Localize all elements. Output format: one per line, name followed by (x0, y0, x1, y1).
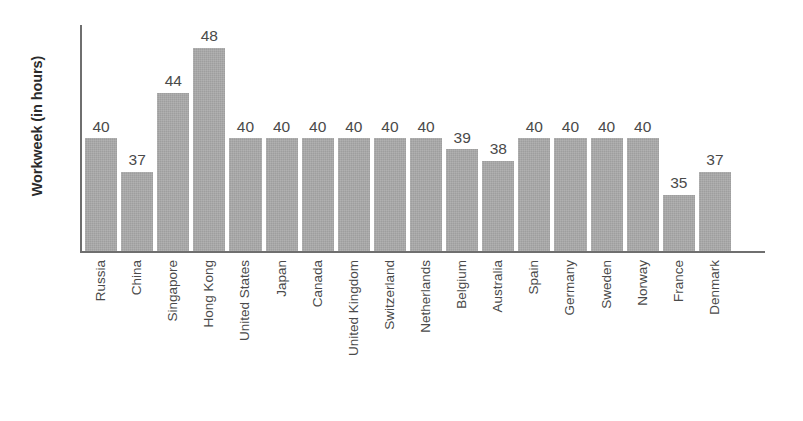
x-axis-tick-label-text: Switzerland (383, 260, 397, 330)
bar-slot: 40 (227, 25, 263, 251)
x-axis-category-labels: RussiaChinaSingaporeHong KongUnited Stat… (83, 256, 733, 406)
x-axis-tick-label: Germany (552, 256, 588, 406)
x-axis-tick-label-text: Netherlands (419, 260, 433, 333)
bar[interactable] (338, 138, 370, 251)
x-axis-tick-label: United Kingdom (336, 256, 372, 406)
x-axis-tick-label: Russia (83, 256, 119, 406)
x-axis-tick-label-text: Germany (564, 260, 578, 316)
x-axis-tick-label-text: Singapore (167, 260, 181, 322)
bar-value-label: 40 (300, 119, 336, 135)
y-axis-line (80, 25, 82, 253)
x-axis-tick-label: Canada (300, 256, 336, 406)
bar[interactable] (591, 138, 623, 251)
x-axis-tick-label: Hong Kong (191, 256, 227, 406)
x-axis-line (80, 251, 765, 253)
x-axis-tick-label: Denmark (697, 256, 733, 406)
bar[interactable] (193, 48, 225, 251)
bar-value-label: 40 (227, 119, 263, 135)
x-axis-tick-label: Sweden (589, 256, 625, 406)
bar-value-label: 40 (516, 119, 552, 135)
bar-slot: 48 (191, 25, 227, 251)
bar-slot: 40 (264, 25, 300, 251)
bar-value-label: 37 (119, 152, 155, 168)
bar-value-label: 40 (372, 119, 408, 135)
bar-value-label: 40 (625, 119, 661, 135)
x-axis-tick-label: Norway (625, 256, 661, 406)
bar-slot: 40 (625, 25, 661, 251)
x-axis-tick-label-text: United Kingdom (347, 260, 361, 356)
bar-slot: 40 (408, 25, 444, 251)
bar-slot: 35 (661, 25, 697, 251)
bar-slot: 40 (300, 25, 336, 251)
bar[interactable] (266, 138, 298, 251)
x-axis-tick-label-text: Spain (528, 260, 542, 295)
x-axis-tick-label-text: China (130, 260, 144, 295)
bar-value-label: 38 (480, 141, 516, 157)
bar-value-label: 44 (155, 73, 191, 89)
bar-value-label: 35 (661, 175, 697, 191)
x-axis-tick-label: Belgium (444, 256, 480, 406)
x-axis-tick-label: France (661, 256, 697, 406)
x-axis-tick-label: Australia (480, 256, 516, 406)
bar-slot: 40 (552, 25, 588, 251)
bar-value-label: 40 (336, 119, 372, 135)
bar-value-label: 40 (589, 119, 625, 135)
x-axis-tick-label: Japan (264, 256, 300, 406)
bar-value-label: 40 (408, 119, 444, 135)
bar-value-label: 40 (83, 119, 119, 135)
x-axis-tick-label-text: Belgium (455, 260, 469, 309)
bar-value-label: 48 (191, 28, 227, 44)
bar[interactable] (663, 195, 695, 252)
x-axis-tick-label-text: Japan (275, 260, 289, 297)
x-axis-tick-label-text: Russia (94, 260, 108, 301)
bar[interactable] (85, 138, 117, 251)
bar[interactable] (627, 138, 659, 251)
x-axis-tick-label-text: Canada (311, 260, 325, 307)
x-axis-tick-label-text: Denmark (708, 260, 722, 315)
x-axis-tick-label: United States (227, 256, 263, 406)
bar-value-label: 40 (264, 119, 300, 135)
bar-value-label: 37 (697, 152, 733, 168)
x-axis-tick-label: Switzerland (372, 256, 408, 406)
bar[interactable] (374, 138, 406, 251)
x-axis-tick-label: China (119, 256, 155, 406)
x-axis-tick-label-text: Sweden (600, 260, 614, 309)
x-axis-tick-label-text: United States (239, 260, 253, 341)
bar-slot: 40 (83, 25, 119, 251)
x-axis-tick-label: Singapore (155, 256, 191, 406)
x-axis-tick-label-text: France (672, 260, 686, 302)
bar[interactable] (446, 149, 478, 251)
x-axis-tick-label: Netherlands (408, 256, 444, 406)
plot-area: 403744484040404040403938404040403537 (83, 25, 733, 251)
bar[interactable] (157, 93, 189, 251)
x-axis-tick-label-text: Australia (492, 260, 506, 313)
x-axis-tick-label-text: Norway (636, 260, 650, 306)
bar-slot: 44 (155, 25, 191, 251)
bar[interactable] (410, 138, 442, 251)
bar-slot: 39 (444, 25, 480, 251)
bar[interactable] (229, 138, 261, 251)
bar-slot: 40 (372, 25, 408, 251)
bar-value-label: 40 (552, 119, 588, 135)
bar-slot: 40 (336, 25, 372, 251)
bar-slot: 40 (516, 25, 552, 251)
x-axis-tick-label-text: Hong Kong (203, 260, 217, 328)
bar[interactable] (518, 138, 550, 251)
bar[interactable] (554, 138, 586, 251)
bar-slot: 37 (119, 25, 155, 251)
bar[interactable] (121, 172, 153, 251)
bar-chart: Workweek (in hours) 40374448404040404040… (0, 0, 803, 421)
bar-slot: 37 (697, 25, 733, 251)
x-axis-tick-label: Spain (516, 256, 552, 406)
bar[interactable] (302, 138, 334, 251)
bar-slot: 38 (480, 25, 516, 251)
bar[interactable] (699, 172, 731, 251)
y-axis-title-text: Workweek (in hours) (29, 56, 45, 196)
bar-value-label: 39 (444, 130, 480, 146)
y-axis-title: Workweek (in hours) (0, 0, 74, 252)
bar[interactable] (482, 161, 514, 251)
bar-slot: 40 (589, 25, 625, 251)
